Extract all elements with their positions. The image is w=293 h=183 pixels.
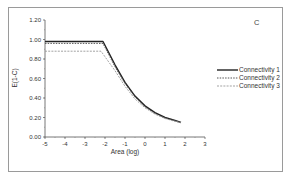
x-tick-label: 3 [203,141,207,147]
y-tick-label: 1.00 [29,37,41,43]
y-axis-title: E(1-C) [11,68,19,87]
y-tick-label: 1.20 [29,17,41,23]
x-tick-label: 1 [163,141,167,147]
y-tick-label: 0.00 [29,134,41,140]
axes: -5-4-3-2-101230.000.200.400.600.801.001.… [29,17,207,147]
x-tick-label: 2 [183,141,187,147]
series-lines [45,42,181,123]
legend: Connectivity 1Connectivity 2Connectivity… [217,66,280,90]
x-tick-label: 0 [143,141,147,147]
panel-label: C [254,18,260,27]
line-chart: -5-4-3-2-101230.000.200.400.600.801.001.… [0,0,293,183]
x-tick-label: -1 [122,141,128,147]
x-tick-label: -3 [82,141,88,147]
y-tick-label: 0.20 [29,115,41,121]
legend-label-2: Connectivity 2 [239,74,280,82]
series-line-2 [45,43,181,122]
legend-label-1: Connectivity 1 [239,66,280,74]
y-tick-label: 0.80 [29,56,41,62]
x-tick-label: -5 [42,141,48,147]
legend-label-3: Connectivity 3 [239,82,280,90]
series-line-1 [45,42,181,123]
x-tick-label: -2 [102,141,108,147]
y-tick-label: 0.60 [29,76,41,82]
x-axis-title: Area (log) [111,148,140,156]
x-tick-label: -4 [62,141,68,147]
y-tick-label: 0.40 [29,95,41,101]
